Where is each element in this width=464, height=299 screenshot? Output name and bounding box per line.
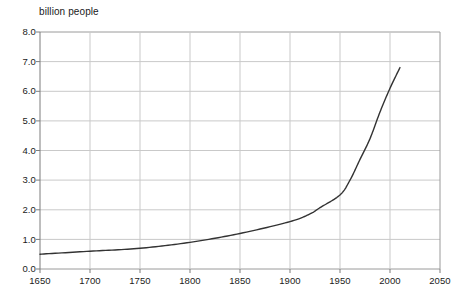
x-tick-marks — [40, 269, 440, 273]
x-tick-label: 1800 — [170, 276, 210, 286]
x-tick-label: 1900 — [270, 276, 310, 286]
y-tick-label: 2.0 — [3, 205, 36, 215]
y-tick-label: 4.0 — [3, 146, 36, 156]
x-tick-label: 2000 — [370, 276, 410, 286]
population-line-chart: billion people — [0, 0, 464, 299]
x-tick-label: 2050 — [420, 276, 460, 286]
x-tick-label: 1950 — [320, 276, 360, 286]
population-curve — [40, 68, 400, 255]
y-tick-label: 6.0 — [3, 86, 36, 96]
x-tick-label: 1650 — [20, 276, 60, 286]
y-tick-marks — [36, 32, 40, 269]
y-tick-label: 3.0 — [3, 175, 36, 185]
y-tick-label: 5.0 — [3, 116, 36, 126]
x-tick-label: 1850 — [220, 276, 260, 286]
x-tick-label: 1750 — [120, 276, 160, 286]
y-tick-label: 0.0 — [3, 264, 36, 274]
y-tick-label: 7.0 — [3, 57, 36, 67]
y-tick-label: 8.0 — [3, 27, 36, 37]
y-axis-tick-labels: 8.0 7.0 6.0 5.0 4.0 3.0 2.0 1.0 0.0 — [0, 0, 36, 299]
y-tick-label: 1.0 — [3, 235, 36, 245]
x-tick-label: 1700 — [70, 276, 110, 286]
plot-canvas — [0, 0, 464, 299]
